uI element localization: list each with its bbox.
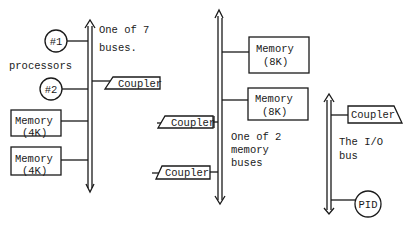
io-bus bbox=[324, 94, 334, 214]
bus-arrow-up-icon bbox=[85, 20, 95, 28]
io-bus-label-line2: bus bbox=[339, 150, 358, 162]
memory-4k-1-line2: (4K) bbox=[22, 127, 47, 139]
processor-bus bbox=[85, 20, 95, 192]
bus-arrow-up-icon bbox=[215, 10, 223, 18]
memory-bus-label-line3: buses bbox=[231, 157, 263, 169]
io-bus-coupler-label: Coupler bbox=[351, 109, 395, 121]
memory-8k-2-line1: Memory bbox=[255, 93, 293, 105]
processor-bus-label-line1: One of 7 bbox=[99, 24, 149, 36]
memory-8k-1-line1: Memory bbox=[256, 43, 294, 55]
io-bus-label-line1: The I/O bbox=[339, 136, 383, 148]
memory-4k-1-line1: Memory bbox=[15, 115, 53, 127]
processor-1-label: #1 bbox=[50, 36, 63, 48]
processor-2-label: #2 bbox=[45, 84, 58, 96]
bus-arrow-down-icon bbox=[324, 208, 334, 214]
memory-bus-label-line1: One of 2 bbox=[231, 131, 281, 143]
memory-bus bbox=[215, 10, 225, 204]
bus-arrow-down-icon bbox=[215, 196, 225, 204]
memory-4k-2-line2: (4K) bbox=[22, 165, 47, 177]
memory-8k-2-line2: (8K) bbox=[262, 106, 287, 118]
memory-bus-coupler-1-label: Coupler bbox=[171, 117, 215, 129]
memory-4k-2-line1: Memory bbox=[15, 153, 53, 165]
pid-label: PID bbox=[359, 199, 378, 211]
processor-bus-coupler-label: Coupler bbox=[118, 78, 162, 90]
memory-bus-coupler-2-label: Coupler bbox=[165, 167, 209, 179]
bus-arrow-up-icon bbox=[324, 94, 334, 102]
processor-bus-label-line2: buses. bbox=[99, 42, 137, 54]
memory-bus-label-line2: memory bbox=[231, 144, 269, 156]
bus-architecture-diagram: One of 7 buses. #1 processors #2 Coupler… bbox=[0, 0, 414, 225]
memory-8k-1-line2: (8K) bbox=[263, 56, 288, 68]
bus-arrow-down-icon bbox=[86, 184, 94, 192]
processors-label: processors bbox=[9, 60, 72, 72]
